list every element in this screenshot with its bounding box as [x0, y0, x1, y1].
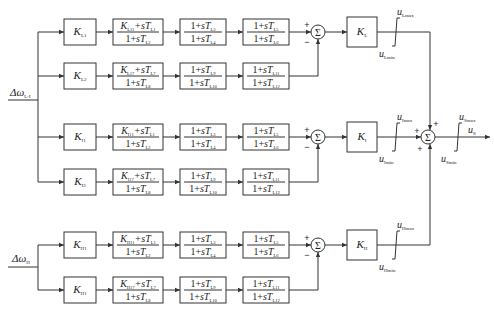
band-H-limiter-min-label: uHmin — [379, 261, 396, 273]
output-limiter-max-label: uSmax — [459, 111, 476, 123]
band-H-row-1-lead-lag-block-1-numerator: KH11+sTL1 — [119, 233, 155, 245]
sigma-symbol: Σ — [315, 27, 321, 38]
sigma-symbol: Σ — [425, 132, 431, 143]
band-I-limiter-max-label: uImax — [397, 111, 413, 123]
sign-label: + — [433, 119, 438, 129]
sign-label: − — [304, 142, 309, 152]
sign-label: − — [304, 250, 309, 260]
sigma-symbol: Σ — [315, 240, 321, 251]
band-L-to-final-sum — [377, 32, 430, 130]
sigma-symbol: Σ — [315, 132, 321, 143]
band-I-limiter-min-label: uImin — [379, 153, 394, 165]
input-label-delta-omega-H: ΔωH — [11, 252, 30, 265]
input-label-delta-omega-LI: ΔωL-I — [9, 86, 31, 99]
band-H-limiter-max-label: uHmax — [397, 219, 415, 231]
band-L-limiter-max-label: uLmax — [397, 6, 414, 18]
sign-label: + — [304, 125, 309, 135]
band-L-limiter-min-label: uLmin — [379, 48, 395, 60]
band-L-row-1-lead-lag-block-1-numerator: KL11+sTL1 — [120, 20, 156, 32]
band-I-row-1-lead-lag-block-1-numerator: KI11+sTL1 — [120, 125, 155, 137]
output-limiter-min-label: uSmin — [441, 153, 457, 165]
sign-label: + — [304, 20, 309, 30]
sign-label: + — [304, 233, 309, 243]
sign-label: − — [304, 37, 309, 47]
output-label-us: uS — [468, 124, 476, 136]
sign-label: + — [414, 126, 419, 136]
sign-label: + — [417, 144, 422, 154]
pss-block-diagram: ΔωL-IΔωHKL1KL11+sTL11+sTL21+sTL31+sTL41+… — [0, 0, 494, 320]
